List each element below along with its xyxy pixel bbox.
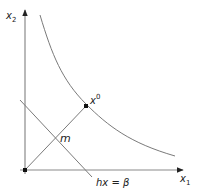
- origin-point: [23, 168, 27, 172]
- x0-label: x0: [89, 93, 100, 106]
- y-axis-label: x2: [5, 10, 16, 24]
- m-label: m: [60, 132, 71, 145]
- x0-point: [84, 104, 88, 108]
- hyperplane-label: hx = β: [96, 177, 130, 188]
- diagram-canvas: x2 x1 x0 m hx = β: [0, 0, 199, 192]
- x-axis-label: x1: [179, 173, 190, 187]
